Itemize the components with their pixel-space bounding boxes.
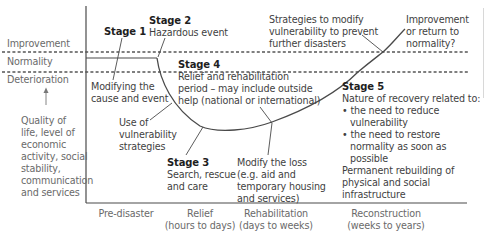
- stage3-leader: [186, 127, 203, 155]
- up-arrow-icon: [44, 88, 49, 94]
- phase-rehabilitation: Rehabilitation: [236, 208, 316, 220]
- stage4-leader: [260, 107, 272, 123]
- stage5-footer-line1: Permanent rebuilding of: [342, 165, 454, 177]
- stage4-title: Stage 4: [178, 59, 220, 71]
- stage2-title: Stage 2: [149, 15, 191, 27]
- modify-loss-leader: [268, 123, 272, 155]
- modifying-cause-line2: cause and event: [91, 93, 168, 105]
- modifying-cause-line1: Modifying the: [91, 81, 154, 93]
- phase-reconstruction: Reconstruction: [336, 208, 436, 220]
- stage5-footer-line2: physical and social: [342, 177, 430, 189]
- modify-loss-line4: and services): [237, 193, 299, 205]
- modify-loss-line2: (e.g. aid and: [237, 169, 296, 181]
- stage5-bullet-2-cont2: possible: [350, 153, 388, 165]
- stage5-footer-line3: infrastructure: [342, 189, 405, 201]
- strategies-line1: Strategies to modify: [269, 14, 364, 26]
- stage2-leader: [158, 38, 165, 57]
- phase-relief: Relief: [160, 208, 240, 220]
- stage1-leader: [113, 38, 122, 80]
- improvement-return-line3: normality?: [406, 38, 455, 50]
- stage2-desc: Hazardous event: [149, 27, 228, 39]
- use-vulnerability-line2: vulnerability: [119, 129, 177, 141]
- use-vulnerability-line1: Use of: [119, 117, 148, 129]
- modify-loss-line3: temporary housing: [237, 181, 326, 193]
- phase-reconstruction-duration: (weeks to years): [336, 220, 436, 232]
- modify-loss-line1: Modify the loss: [237, 157, 307, 169]
- stage5-bullet-1: • the need to reduce: [342, 105, 439, 117]
- improvement-return-line2: or return to: [406, 26, 459, 38]
- stage5-title: Stage 5: [342, 81, 384, 93]
- phase-relief-duration: (hours to days): [160, 220, 240, 232]
- stage5-bullet-1-cont: vulnerability: [350, 117, 408, 129]
- level-deterioration: Deterioration: [7, 74, 69, 86]
- vulnerability-strategies-leader: [150, 103, 172, 120]
- stage4-desc-line3: help (national or international): [178, 95, 320, 107]
- strategies-line2: vulnerability to prevent: [269, 26, 378, 38]
- stage4-desc-line1: Relief and rehabilitation: [178, 71, 289, 83]
- improvement-return-line1: Improvement: [406, 14, 469, 26]
- level-improvement: Improvement: [7, 38, 70, 50]
- phase-rehabilitation-duration: (days to weeks): [236, 220, 316, 232]
- stage4-desc-line2: period – may include outside: [178, 83, 312, 95]
- stage3-desc-line2: and care: [167, 181, 208, 193]
- use-vulnerability-line3: strategies: [119, 141, 165, 153]
- stage1-title: Stage 1: [104, 26, 146, 38]
- strategies-line3: further disasters: [269, 38, 346, 50]
- stage3-title: Stage 3: [167, 157, 209, 169]
- stage3-desc-line1: Search, rescue: [167, 169, 236, 181]
- stage5-bullet-2-cont1: normality as soon as: [350, 141, 446, 153]
- level-normality: Normality: [7, 56, 52, 68]
- stage5-desc: Nature of recovery related to:: [342, 93, 480, 105]
- phase-pre-disaster: Pre-disaster: [86, 208, 166, 220]
- stage5-bullet-2: • the need to restore: [342, 129, 440, 141]
